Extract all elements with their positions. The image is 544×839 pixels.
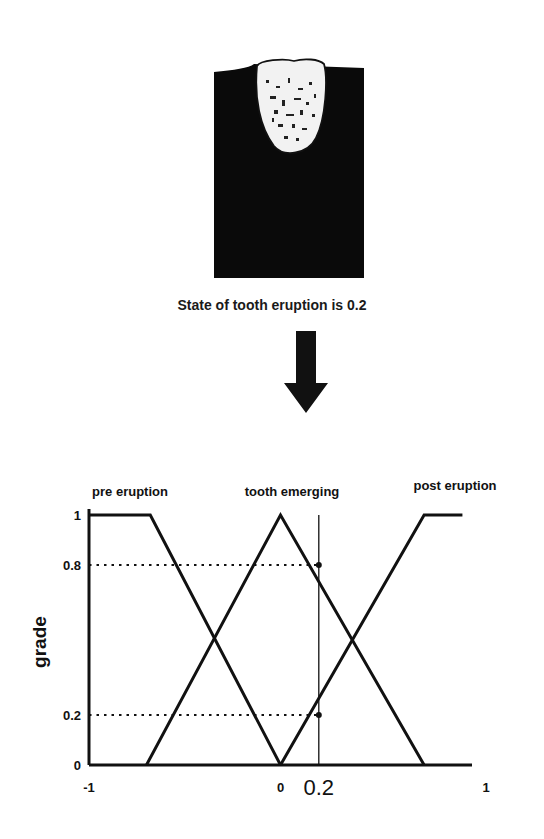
y-tick-label: 1	[74, 508, 81, 523]
series-label: post eruption	[413, 478, 496, 493]
y-tick-label: 0	[74, 758, 81, 773]
series-label: tooth emerging	[245, 484, 340, 499]
intersection-point	[316, 562, 322, 568]
series-line-post-eruption	[281, 515, 463, 765]
series-line-tooth-emerging	[146, 515, 424, 765]
y-tick-label: 0.8	[63, 558, 81, 573]
marker-value-label: 0.2	[304, 775, 335, 800]
x-tick-label: -1	[83, 780, 95, 795]
x-tick-label: 0	[277, 780, 284, 795]
series-line-pre-eruption	[89, 515, 281, 765]
guide-lines	[89, 515, 322, 765]
axes	[89, 509, 472, 765]
membership-function-chart: 00.20.81-101grade0.2pre eruptiontooth em…	[0, 460, 544, 839]
tooth-radiograph-image	[214, 58, 374, 278]
y-axis-label: grade	[29, 616, 50, 668]
x-tick-label: 1	[482, 780, 489, 795]
down-arrow-icon	[284, 331, 328, 413]
label-group: 00.20.81-101grade0.2pre eruptiontooth em…	[29, 478, 497, 800]
figure-caption: State of tooth eruption is 0.2	[0, 297, 544, 313]
series-label: pre eruption	[92, 484, 168, 499]
series-group	[89, 515, 462, 765]
intersection-point	[316, 712, 322, 718]
y-tick-label: 0.2	[63, 708, 81, 723]
